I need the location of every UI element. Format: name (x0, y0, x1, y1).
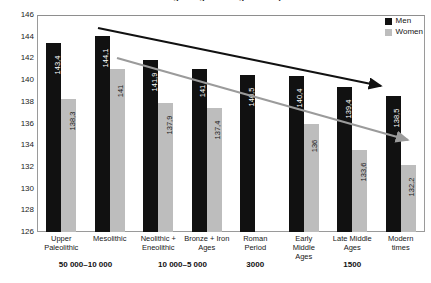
x-category-1: Mesolithic (86, 234, 135, 243)
bar-group: 141137,4 (192, 15, 222, 232)
y-tick-label: 136 (0, 120, 34, 128)
bar-value-label: 138,5 (393, 109, 401, 128)
legend: Men Women (385, 17, 423, 36)
x-category-4: Roman Period (231, 234, 280, 252)
period-band-label: 50 000–10 000 (37, 260, 134, 270)
y-tick-label: 126 (0, 228, 34, 236)
chart-page: Average height through history 146144142… (0, 0, 431, 283)
bar-women[interactable]: 136 (304, 124, 319, 233)
y-tick-label: 140 (0, 76, 34, 84)
period-band-label: 10 000–5 000 (134, 260, 231, 270)
y-tick-label: 132 (0, 163, 34, 171)
legend-swatch-men-icon (385, 18, 392, 25)
bar-women[interactable]: 137,4 (207, 108, 222, 232)
y-tick-label: 146 (0, 11, 34, 19)
period-band-label: 1500 (328, 260, 377, 270)
legend-label-men: Men (396, 17, 412, 25)
bar-group: 138,5132,2 (386, 15, 416, 232)
bar-men[interactable]: 138,5 (386, 96, 401, 232)
x-category-label: Early Middle Ages (280, 234, 329, 261)
bar-women[interactable]: 138,3 (61, 99, 76, 232)
x-category-label: Mesolithic (86, 234, 135, 243)
bar-value-label: 141,9 (151, 72, 159, 91)
x-category-label: Upper Paleolithic (37, 234, 86, 252)
bar-group: 140,4136 (289, 15, 319, 232)
x-axis: 50 000–10 00010 000–5 00030001500 Upper … (37, 234, 425, 283)
bar-value-label: 141 (117, 85, 125, 98)
bar-group: 140,5 (240, 15, 270, 232)
period-band-label: 3000 (231, 260, 280, 270)
bar-men[interactable]: 140,5 (240, 75, 255, 232)
y-tick-label: 128 (0, 206, 34, 214)
bar-value-label: 137,9 (166, 116, 174, 135)
bar-value-label: 136 (311, 139, 319, 152)
bar-men[interactable]: 139,4 (337, 87, 352, 232)
bar-men[interactable]: 140,4 (289, 76, 304, 232)
x-category-2: Neolithic + Eneolithic (134, 234, 183, 252)
bar-value-label: 141 (199, 85, 207, 98)
legend-item-women: Women (385, 28, 423, 36)
bar-value-label: 139,4 (345, 99, 353, 118)
bar-women[interactable]: 133,6 (352, 150, 367, 232)
bar-value-label: 132,2 (408, 177, 416, 196)
bar-group: 141,9137,9 (143, 15, 173, 232)
bar-men[interactable]: 143,4 (46, 43, 61, 232)
bar-men[interactable]: 144,1 (95, 36, 110, 232)
bars-layer: 143,4138,3144,1141141,9137,9141137,4140,… (37, 15, 425, 232)
bar-group: 143,4138,3 (46, 15, 76, 232)
bar-women[interactable]: 137,9 (158, 103, 173, 232)
period-bands: 50 000–10 00010 000–5 00030001500 (37, 260, 425, 278)
bar-value-label: 137,4 (214, 121, 222, 140)
bar-group: 144,1141 (95, 15, 125, 232)
bar-women[interactable]: 141 (110, 69, 125, 232)
legend-label-women: Women (396, 28, 423, 36)
bar-value-label: 143,4 (54, 56, 62, 75)
legend-item-men: Men (385, 17, 423, 25)
x-category-3: Bronze + Iron Ages (183, 234, 232, 252)
y-axis: 146144142140138136134132130128126 (0, 0, 34, 283)
bar-value-label: 144,1 (102, 48, 110, 67)
x-category-7: Modern times (377, 234, 426, 252)
y-tick-label: 134 (0, 141, 34, 149)
bar-value-label: 140,5 (248, 87, 256, 106)
bar-men[interactable]: 141,9 (143, 60, 158, 233)
bar-value-label: 133,6 (360, 162, 368, 181)
bar-men[interactable]: 141 (192, 69, 207, 232)
chart-title: Average height through history (0, 0, 431, 1)
x-category-0: Upper Paleolithic (37, 234, 86, 252)
y-tick-label: 130 (0, 185, 34, 193)
x-category-5: Early Middle Ages (280, 234, 329, 261)
x-category-label: Late Middle Ages (328, 234, 377, 252)
x-category-label: Modern times (377, 234, 426, 252)
x-category-label: Roman Period (231, 234, 280, 252)
y-tick-label: 142 (0, 54, 34, 62)
y-tick-label: 144 (0, 33, 34, 41)
x-category-label: Neolithic + Eneolithic (134, 234, 183, 252)
bar-value-label: 140,4 (296, 88, 304, 107)
x-category-label: Bronze + Iron Ages (183, 234, 232, 252)
y-tick-label: 138 (0, 98, 34, 106)
x-category-6: Late Middle Ages (328, 234, 377, 252)
bar-women[interactable]: 132,2 (401, 165, 416, 232)
bar-value-label: 138,3 (69, 111, 77, 130)
bar-group: 139,4133,6 (337, 15, 367, 232)
legend-swatch-women-icon (385, 29, 392, 36)
